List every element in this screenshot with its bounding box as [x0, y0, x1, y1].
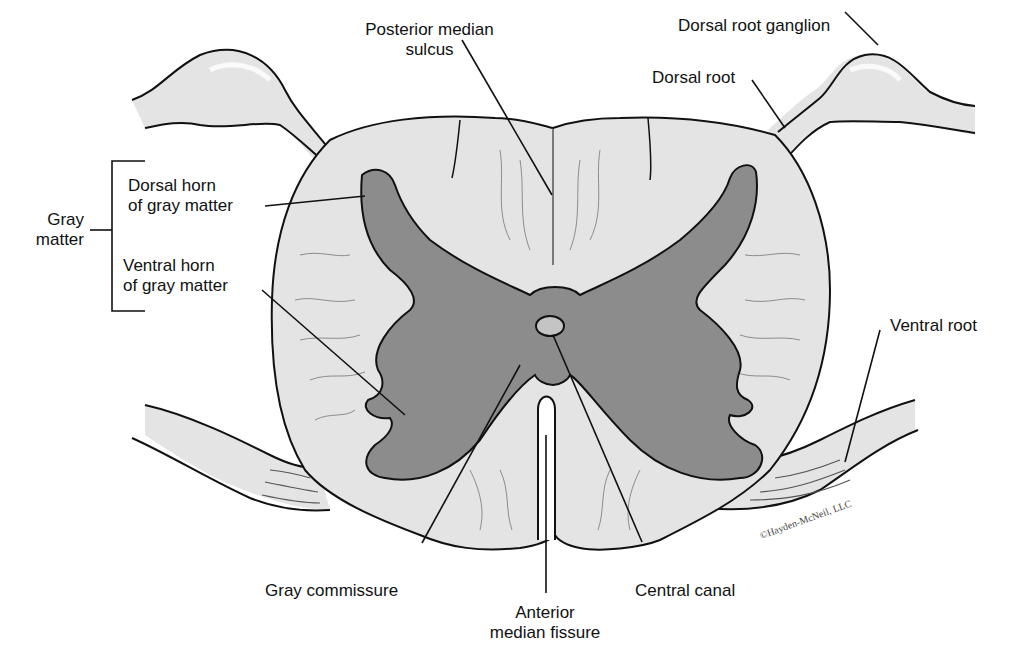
- label-line: Anterior: [470, 603, 620, 623]
- label-gray-commissure: Gray commissure: [265, 581, 398, 601]
- label-line: Gray: [20, 210, 84, 230]
- label-line: Posterior median: [342, 20, 517, 40]
- label-central-canal: Central canal: [635, 581, 735, 601]
- right-dorsal-root-ganglion: [768, 54, 975, 160]
- spinal-cord-diagram: Posterior median sulcus Dorsal root gang…: [0, 0, 1017, 667]
- label-ventral-horn: Ventral horn of gray matter: [123, 256, 228, 296]
- label-line: of gray matter: [123, 276, 228, 296]
- label-line: median fissure: [470, 623, 620, 643]
- central-canal: [536, 316, 564, 336]
- label-dorsal-horn: Dorsal horn of gray matter: [128, 176, 233, 216]
- left-dorsal-root-ganglion: [132, 50, 330, 165]
- label-line: sulcus: [342, 40, 517, 60]
- label-anterior-median-fissure: Anterior median fissure: [470, 603, 620, 643]
- spinal-cord-illustration: [0, 0, 1017, 667]
- label-dorsal-root-ganglion: Dorsal root ganglion: [678, 16, 830, 36]
- label-posterior-median-sulcus: Posterior median sulcus: [342, 20, 517, 60]
- label-dorsal-root: Dorsal root: [652, 68, 735, 88]
- label-line: Dorsal horn: [128, 176, 233, 196]
- label-line: matter: [20, 230, 84, 250]
- label-ventral-root: Ventral root: [890, 316, 977, 336]
- label-gray-matter: Gray matter: [20, 210, 84, 250]
- label-line: of gray matter: [128, 196, 233, 216]
- label-line: Ventral horn: [123, 256, 228, 276]
